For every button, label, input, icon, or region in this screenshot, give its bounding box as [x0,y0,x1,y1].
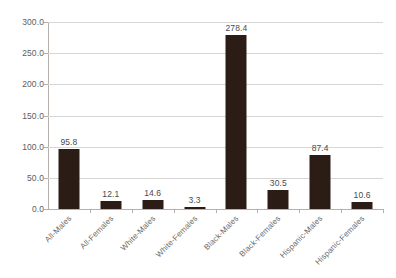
bar-value-label: 87.4 [312,143,329,153]
bar-group: 30.5 [257,22,299,209]
bar-value-label: 3.3 [189,195,201,205]
bar-value-label: 278.4 [226,23,248,33]
y-axis-tick-label: 100.0 [0,142,44,152]
bar-group: 3.3 [174,22,216,209]
plot-area: 95.812.114.63.3278.430.587.410.6 [48,22,383,209]
y-axis-tick-label: 50.0 [0,173,44,183]
y-axis-tick-label: 300.0 [0,17,44,27]
bar-value-label: 30.5 [270,178,287,188]
x-axis-category-label-text: All-Males [43,214,73,244]
y-axis-tick-label: 0.0 [0,204,44,214]
x-axis-tick-mark [383,209,384,213]
x-axis-labels: All-MalesAll-FemalesWhite-MalesWhite-Fem… [48,212,383,274]
bar[interactable] [58,149,79,209]
x-axis-label-slot: Hispanic-Females [341,212,383,274]
bar-value-label: 14.6 [144,188,161,198]
bar-group: 14.6 [132,22,174,209]
bar-value-label: 12.1 [102,189,119,199]
bar-value-label: 10.6 [354,190,371,200]
bar-group: 95.8 [48,22,90,209]
y-axis-tick-label: 150.0 [0,111,44,121]
y-axis-tick-label: 250.0 [0,48,44,58]
y-axis-labels: 0.050.0100.0150.0200.0250.0300.0 [0,0,44,278]
bar-value-label: 95.8 [60,137,77,147]
bar-chart: 0.050.0100.0150.0200.0250.0300.0 95.812.… [0,0,396,278]
bar-group: 12.1 [90,22,132,209]
y-axis-tick-label: 200.0 [0,79,44,89]
